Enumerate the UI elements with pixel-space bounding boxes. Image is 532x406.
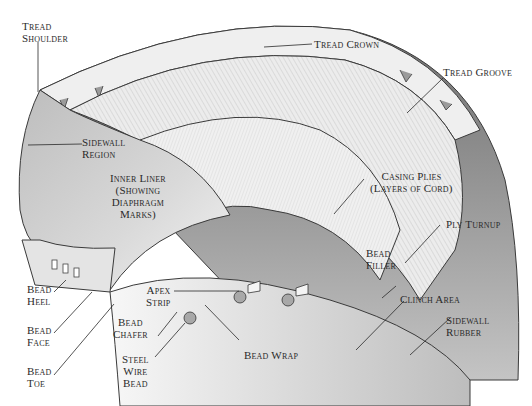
label-line: Apex (146, 284, 170, 296)
label-tread-crown: Tread Crown (314, 38, 379, 50)
label-bead-wrap: Bead Wrap (244, 349, 298, 361)
label-bead-face: Bead Face (27, 324, 52, 348)
label-line: Bead (366, 247, 396, 259)
label-line: Tread Groove (443, 66, 512, 78)
label-bead-toe: Bead Toe (27, 365, 52, 389)
label-line: Bead Wrap (244, 349, 298, 361)
label-steel-wire-bead: Steel Wire Bead (122, 353, 149, 389)
label-tread-groove: Tread Groove (443, 66, 512, 78)
label-line: Sidewall (82, 136, 125, 148)
label-line: Bead (122, 377, 149, 389)
label-line: (Showing (110, 184, 166, 196)
label-line: Bead (27, 365, 52, 377)
label-bead-chafer: Bead Chafer (113, 316, 148, 340)
label-sidewall-region: Sidewall Region (82, 136, 125, 160)
label-bead-filler: Bead Filler (366, 247, 396, 271)
label-line: Sidewall (446, 314, 489, 326)
label-line: (Layers of Cord) (370, 182, 453, 194)
label-ply-turnup: Ply Turnup (446, 218, 500, 230)
label-line: Casing Plies (370, 170, 453, 182)
label-line: Bead (27, 283, 52, 295)
label-line: Rubber (446, 326, 489, 338)
label-bead-heel: Bead Heel (27, 283, 52, 307)
label-line: Shoulder (22, 32, 68, 44)
label-casing-plies: Casing Plies (Layers of Cord) (370, 170, 453, 194)
label-apex-strip: Apex Strip (146, 284, 170, 308)
label-line: Region (82, 148, 125, 160)
label-tread-shoulder: Tread Shoulder (22, 20, 68, 44)
label-line: Strip (146, 296, 170, 308)
label-line: Tread Crown (314, 38, 379, 50)
label-line: Inner Liner (110, 172, 166, 184)
label-line: Diaphragm (110, 196, 166, 208)
label-line: Wire (122, 365, 149, 377)
label-line: Marks) (110, 208, 166, 220)
label-line: Steel (122, 353, 149, 365)
label-line: Tread (22, 20, 68, 32)
label-line: Toe (27, 377, 52, 389)
label-clinch-area: Clinch Area (400, 293, 460, 305)
tire-diagram: Tread Shoulder Tread Crown Tread Groove … (0, 0, 532, 406)
label-line: Bead (113, 316, 148, 328)
tire-illustration (0, 0, 532, 406)
label-line: Chafer (113, 328, 148, 340)
label-inner-liner: Inner Liner (Showing Diaphragm Marks) (110, 172, 166, 220)
label-line: Ply Turnup (446, 218, 500, 230)
label-line: Heel (27, 295, 52, 307)
label-line: Clinch Area (400, 293, 460, 305)
label-line: Face (27, 336, 52, 348)
label-line: Filler (366, 259, 396, 271)
label-sidewall-rubber: Sidewall Rubber (446, 314, 489, 338)
label-line: Bead (27, 324, 52, 336)
